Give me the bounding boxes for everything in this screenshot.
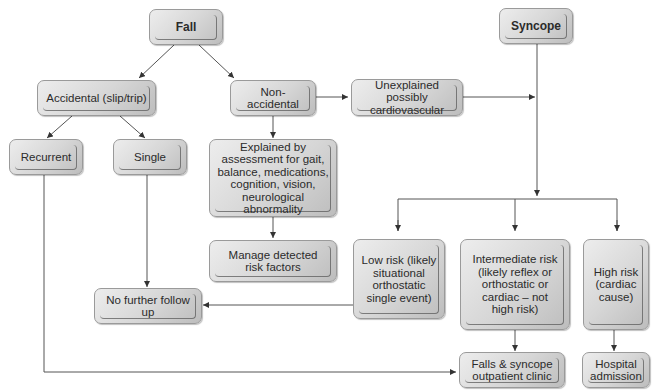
- node-clinic: Falls & syncope outpatient clinic: [459, 352, 565, 388]
- node-fall: Fall: [149, 9, 223, 45]
- node-single: Single: [113, 139, 187, 175]
- node-intermediate-risk: Intermediate risk (likely reflex or orth…: [460, 239, 570, 330]
- node-manage: Manage detected risk factors: [209, 240, 337, 282]
- node-unexplained: Unexplained possibly cardiovascular: [351, 79, 463, 116]
- node-recurrent: Recurrent: [9, 139, 83, 175]
- node-low-risk: Low risk (likely situational orthostatic…: [353, 239, 445, 319]
- node-syncope: Syncope: [499, 8, 573, 44]
- node-hospital: Hospital admission: [582, 352, 650, 388]
- node-high-risk: High risk (cardiac cause): [583, 239, 649, 330]
- node-no-follow-up: No further follow up: [94, 288, 202, 324]
- node-accidental: Accidental (slip/trip): [37, 80, 156, 116]
- node-non-accidental: Non-accidental: [230, 80, 316, 116]
- node-explained: Explained by assessment for gait, balanc…: [209, 139, 337, 217]
